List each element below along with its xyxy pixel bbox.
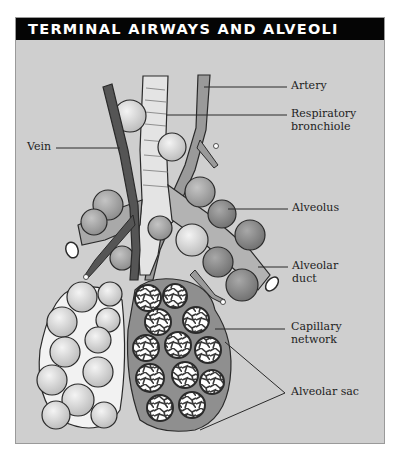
label-artery: Artery (291, 80, 327, 93)
label-alveolar-duct-line2: duct (292, 273, 317, 286)
label-alveolus: Alveolus (292, 202, 339, 215)
capillary-network (128, 279, 232, 432)
label-vein: Vein (27, 141, 51, 154)
label-alveolar-duct-line1: Alveolar (292, 260, 338, 273)
label-respiratory-bronchiole-line1: Respiratory (291, 108, 356, 121)
label-capillary-network-line1: Capillary (291, 321, 342, 334)
label-capillary-network-line2: network (291, 334, 337, 347)
label-alveolar-sac: Alveolar sac (291, 386, 359, 399)
sac-leader-upper (225, 342, 285, 393)
alveolar-sac-left (37, 282, 125, 429)
label-respiratory-bronchiole-line2: bronchiole (291, 121, 350, 134)
